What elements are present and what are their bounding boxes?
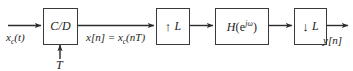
- block-filter-label: H(ejω): [227, 19, 258, 35]
- output-index: [n]: [328, 34, 342, 46]
- block-downsampler-factor: L: [312, 19, 319, 34]
- block-filter[interactable]: H(ejω): [215, 8, 269, 45]
- label-sampled-signal: x[n] = xc(nT): [86, 31, 145, 46]
- label-output-signal: y[n]: [323, 34, 342, 46]
- filter-h: H: [227, 20, 236, 34]
- label-input-signal: xc(t): [6, 31, 25, 46]
- block-diagram: C/D ↑L H(ejω) ↓L xc(t) x[n] = xc(nT) T y…: [0, 0, 353, 71]
- up-arrow-icon: ↑: [165, 20, 172, 33]
- block-cd-converter[interactable]: C/D: [43, 8, 78, 45]
- sampled-eq: [n] =: [91, 31, 118, 43]
- block-downsampler-label: ↓L: [302, 19, 319, 34]
- input-arg: (t): [14, 31, 24, 43]
- block-upsampler[interactable]: ↑L: [156, 8, 190, 45]
- filter-exponent: jω: [245, 19, 253, 28]
- label-sampling-period: T: [56, 58, 63, 71]
- filter-paren-close: ): [253, 20, 257, 34]
- block-cd-converter-label: C/D: [50, 19, 71, 34]
- sampled-arg: (nT): [126, 31, 145, 43]
- down-arrow-icon: ↓: [302, 20, 309, 33]
- filter-paren-open: (e: [236, 20, 246, 34]
- block-upsampler-factor: L: [174, 19, 181, 34]
- block-upsampler-label: ↑L: [165, 19, 182, 34]
